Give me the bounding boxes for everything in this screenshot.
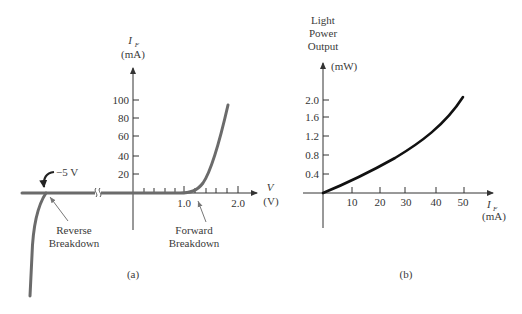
reverse-breakdown-pointer xyxy=(50,197,68,221)
chart-a-ytick-80: 80 xyxy=(118,112,130,124)
chart-a-ytick-20: 20 xyxy=(118,168,130,180)
chart-b-y-label-1: Light xyxy=(311,14,335,26)
chart-a-y-unit: (mA) xyxy=(121,48,145,61)
chart-b-ytick-0.8: 0.8 xyxy=(305,149,319,161)
chart-b-y-ticks xyxy=(323,100,329,174)
chart-b-x-ticks xyxy=(352,187,464,193)
chart-b-y-unit: (mW) xyxy=(331,60,358,73)
chart-a-ytick-40: 40 xyxy=(118,150,130,162)
chart-b-ytick-1.2: 1.2 xyxy=(305,130,319,142)
chart-a-ytick-60: 60 xyxy=(118,130,130,142)
chart-b-xtick-30: 30 xyxy=(401,196,413,208)
chart-b-ytick-2.0: 2.0 xyxy=(305,94,319,106)
chart-b: 2.0 1.6 1.2 0.8 0.4 10 20 30 40 50 Light… xyxy=(303,14,506,281)
chart-a-y-symbol: I xyxy=(127,34,133,46)
chart-a-xtick-2: 2.0 xyxy=(231,197,245,209)
chart-b-x-symbol: I xyxy=(486,198,492,210)
chart-a-y-ticks xyxy=(133,100,139,174)
chart-b-ytick-0.4: 0.4 xyxy=(305,168,319,180)
forward-breakdown-label-1: Forward xyxy=(175,224,213,236)
chart-b-y-label-2: Power xyxy=(309,27,337,39)
chart-b-xtick-10: 10 xyxy=(347,196,359,208)
axis-break-icon xyxy=(95,188,101,198)
chart-a-reverse-curve xyxy=(30,193,46,296)
chart-b-xtick-40: 40 xyxy=(431,196,443,208)
chart-a-reverse-voltage-label: −5 V xyxy=(56,166,78,178)
forward-breakdown-pointer xyxy=(198,201,206,222)
chart-a-caption: (a) xyxy=(127,268,140,281)
chart-b-ytick-1.6: 1.6 xyxy=(305,111,319,123)
chart-b-xtick-20: 20 xyxy=(375,196,387,208)
reverse-breakdown-label-2: Breakdown xyxy=(49,237,100,249)
chart-b-xtick-50: 50 xyxy=(458,196,470,208)
chart-a-x-unit: (V) xyxy=(263,195,279,208)
figure: 100 80 60 40 20 1.0 2.0 I F (mA) V (V) xyxy=(0,0,522,314)
chart-b-y-label-3: Output xyxy=(308,40,339,52)
chart-a-xtick-1: 1.0 xyxy=(177,197,191,209)
curved-arrow-icon xyxy=(44,172,54,187)
chart-a: 100 80 60 40 20 1.0 2.0 I F (mA) V (V) xyxy=(22,34,279,296)
chart-a-x-symbol: V xyxy=(267,181,275,193)
chart-b-caption: (b) xyxy=(400,268,413,281)
chart-b-x-unit: (mA) xyxy=(482,210,506,223)
chart-a-ytick-100: 100 xyxy=(113,94,130,106)
chart-b-light-output-curve xyxy=(323,97,463,193)
forward-breakdown-label-2: Breakdown xyxy=(169,237,220,249)
reverse-breakdown-label-1: Reverse xyxy=(56,224,92,236)
